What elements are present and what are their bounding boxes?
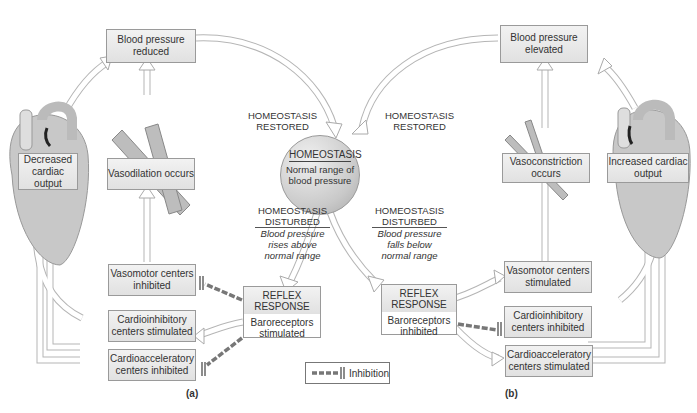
homeostasis-text: Normal range of blood pressure [281, 164, 359, 186]
disturbed-right-text: Blood pressure falls below normal range [372, 228, 447, 261]
legend-label: Inhibition [349, 368, 389, 379]
disturbed-left: HOMEOSTASIS DISTURBED Blood pressure ris… [255, 205, 330, 261]
reflex-response-right: REFLEX RESPONSE Baroreceptors inhibited [381, 284, 457, 335]
disturbed-left-text: Blood pressure rises above normal range [255, 228, 330, 261]
reflex-right-text: Baroreceptors inhibited [382, 312, 456, 340]
restored-right-label: HOMEOSTASIS RESTORED [382, 110, 457, 132]
vasoconstriction-box: Vasoconstriction occurs [502, 153, 590, 183]
homeostasis-circle: HOMEOSTASIS Normal range of blood pressu… [280, 135, 360, 215]
diagram: HOMEOSTASIS Normal range of blood pressu… [0, 0, 697, 413]
cardioacceleratory-inhibited-box: Cardioacceleratory centers inhibited [108, 349, 196, 381]
reflex-response-left: REFLEX RESPONSE Baroreceptors stimulated [243, 286, 321, 338]
bp-elevated-box: Blood pressure elevated [500, 25, 588, 63]
restored-left-label: HOMEOSTASIS RESTORED [245, 110, 320, 132]
inhibition-symbol-icon [312, 367, 345, 379]
disturbed-right: HOMEOSTASIS DISTURBED Blood pressure fal… [372, 205, 447, 261]
decreased-cardiac-output-box: Decreased cardiac output [18, 153, 78, 190]
homeostasis-heading: HOMEOSTASIS [289, 149, 351, 162]
panel-b-label: (b) [505, 388, 518, 399]
cardioinhibitory-inhibited-box: Cardioinhibitory centers inhibited [504, 306, 592, 338]
vasodilation-box: Vasodilation occurs [107, 158, 195, 190]
increased-cardiac-output-box: Increased cardiac output [607, 153, 689, 183]
disturbed-left-heading: HOMEOSTASIS DISTURBED [255, 205, 330, 228]
vasomotor-stimulated-box: Vasomotor centers stimulated [504, 261, 592, 293]
panel-a-label: (a) [186, 388, 198, 399]
legend: Inhibition [305, 362, 390, 384]
bp-reduced-box: Blood pressure reduced [106, 29, 196, 63]
vasomotor-inhibited-box: Vasomotor centers inhibited [108, 264, 196, 296]
cardioacceleratory-stimulated-box: Cardioacceleratory centers stimulated [505, 345, 593, 377]
reflex-right-heading: REFLEX RESPONSE [382, 285, 456, 312]
cardioinhibitory-stimulated-box: Cardioinhibitory centers stimulated [108, 310, 196, 342]
reflex-left-heading: REFLEX RESPONSE [244, 287, 320, 314]
reflex-left-text: Baroreceptors stimulated [244, 314, 320, 342]
disturbed-right-heading: HOMEOSTASIS DISTURBED [372, 205, 447, 228]
